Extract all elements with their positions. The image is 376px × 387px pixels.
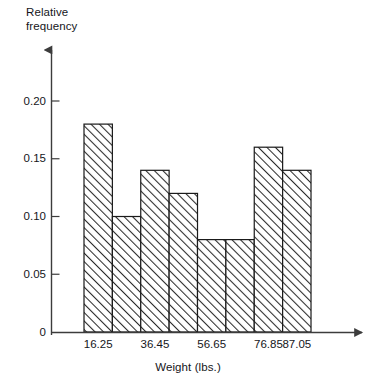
- axis-ticks-group: [52, 101, 60, 274]
- y-axis-tick-label: 0.15: [0, 152, 46, 164]
- y-axis-tick-label: 0.20: [0, 95, 46, 107]
- histogram-bar: [283, 170, 311, 332]
- histogram-bar: [198, 240, 226, 332]
- histogram-bar: [226, 240, 254, 332]
- histogram-bar: [112, 217, 140, 333]
- plot-area: [0, 0, 376, 387]
- x-axis-title: Weight (lbs.): [0, 361, 376, 375]
- histogram-bar: [254, 147, 282, 332]
- x-axis-tick-label: 87.05: [267, 338, 327, 350]
- bars-group: [84, 124, 311, 332]
- histogram-bar: [169, 193, 197, 332]
- y-axis-tick-label: 0.05: [0, 268, 46, 280]
- histogram-chart: Relativefrequency 00.050.100.150.20 16.2…: [0, 0, 376, 387]
- y-axis-tick-label: 0: [0, 326, 46, 338]
- x-axis-tick-label: 36.45: [125, 338, 185, 350]
- histogram-bar: [141, 170, 169, 332]
- y-axis-tick-label: 0.10: [0, 210, 46, 222]
- x-axis-tick-label: 56.65: [182, 338, 242, 350]
- histogram-bar: [84, 124, 112, 332]
- x-axis-tick-label: 16.25: [68, 338, 128, 350]
